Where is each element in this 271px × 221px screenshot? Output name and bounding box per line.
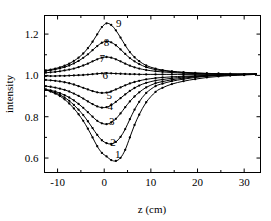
marker-7-6 <box>73 67 75 69</box>
marker-9-30 <box>243 73 245 75</box>
marker-5-5 <box>68 82 70 84</box>
marker-7-10 <box>91 60 93 62</box>
marker-8-7 <box>77 60 79 62</box>
marker-6-22 <box>154 73 156 75</box>
marker-9-7 <box>77 56 79 58</box>
y-axis-major-ticks <box>45 34 261 158</box>
marker-5-3 <box>59 80 61 82</box>
marker-9-27 <box>206 72 208 74</box>
curve-label-4: 4 <box>108 100 114 112</box>
marker-5-24 <box>171 76 173 78</box>
marker-8-9 <box>87 53 89 55</box>
marker-3-2 <box>54 90 56 92</box>
marker-3-5 <box>68 96 70 98</box>
marker-9-0 <box>45 69 47 71</box>
marker-6-5 <box>68 74 70 76</box>
marker-4-4 <box>63 89 65 91</box>
marker-9-4 <box>63 65 65 67</box>
marker-2-18 <box>129 118 131 120</box>
marker-7-4 <box>63 69 65 71</box>
marker-1-9 <box>87 128 89 130</box>
marker-9-18 <box>129 51 131 53</box>
marker-2-4 <box>63 96 65 98</box>
marker-8-19 <box>133 60 135 62</box>
x-tick-label-1: 0 <box>101 176 107 188</box>
marker-4-23 <box>161 78 163 80</box>
marker-5-9 <box>87 88 89 90</box>
marker-7-15 <box>115 58 117 60</box>
marker-4-19 <box>133 87 135 89</box>
y-axis-minor-ticks <box>45 55 261 138</box>
marker-6-2 <box>54 75 56 77</box>
marker-7-1 <box>49 71 51 73</box>
marker-1-11 <box>96 145 98 147</box>
marker-1-22 <box>154 91 156 93</box>
marker-9-29 <box>229 73 231 75</box>
marker-6-21 <box>145 73 147 75</box>
marker-7-9 <box>87 62 89 64</box>
marker-6-16 <box>119 73 121 75</box>
marker-8-15 <box>115 44 117 46</box>
marker-3-20 <box>138 91 140 93</box>
curve-7 <box>46 57 256 74</box>
marker-4-12 <box>101 106 103 108</box>
marker-3-13 <box>105 123 107 125</box>
marker-9-8 <box>82 52 84 54</box>
curve-label-7: 7 <box>100 52 106 64</box>
y-tick-label-0: 0.6 <box>25 152 39 164</box>
marker-4-18 <box>129 90 131 92</box>
marker-9-3 <box>59 66 61 68</box>
marker-5-12 <box>101 92 103 94</box>
marker-9-24 <box>171 70 173 72</box>
marker-6-8 <box>82 74 84 76</box>
marker-1-17 <box>124 149 126 151</box>
marker-9-20 <box>138 60 140 62</box>
curve-label-1: 1 <box>115 148 121 160</box>
marker-6-11 <box>96 73 98 75</box>
marker-9-12 <box>101 26 103 28</box>
marker-5-16 <box>119 86 121 88</box>
marker-6-4 <box>63 75 65 77</box>
marker-3-21 <box>145 86 147 88</box>
data-markers <box>45 22 257 162</box>
marker-2-19 <box>133 109 135 111</box>
marker-7-7 <box>77 66 79 68</box>
marker-8-14 <box>110 41 112 43</box>
marker-4-22 <box>154 79 156 81</box>
curve-label-9: 9 <box>116 17 122 29</box>
marker-2-9 <box>87 120 89 122</box>
marker-8-12 <box>101 42 103 44</box>
marker-1-25 <box>182 80 184 82</box>
marker-8-8 <box>82 57 84 59</box>
marker-7-2 <box>54 71 56 73</box>
marker-1-7 <box>77 113 79 115</box>
marker-4-5 <box>68 90 70 92</box>
marker-3-18 <box>129 100 131 102</box>
marker-1-10 <box>91 136 93 138</box>
marker-9-5 <box>68 62 70 64</box>
marker-2-23 <box>161 83 163 85</box>
marker-9-2 <box>54 67 56 69</box>
marker-4-11 <box>96 105 98 107</box>
y-tick-label-2: 1.0 <box>25 69 39 81</box>
figure-container: -100102030 0.60.81.01.2 123456789 z (cm)… <box>0 0 271 221</box>
marker-9-1 <box>49 68 51 70</box>
marker-6-1 <box>49 75 51 77</box>
marker-6-3 <box>59 75 61 77</box>
marker-9-13 <box>105 22 107 24</box>
marker-2-13 <box>105 142 107 144</box>
marker-5-2 <box>54 80 56 82</box>
marker-7-19 <box>133 66 135 68</box>
marker-5-4 <box>63 81 65 83</box>
marker-2-21 <box>145 92 147 94</box>
marker-1-5 <box>68 102 70 104</box>
marker-9-9 <box>87 47 89 49</box>
x-tick-label-0: -10 <box>50 176 65 188</box>
x-tick-label-3: 20 <box>192 176 204 188</box>
marker-5-11 <box>96 91 98 93</box>
marker-9-14 <box>110 24 112 26</box>
marker-3-4 <box>63 94 65 96</box>
marker-7-18 <box>129 65 131 67</box>
marker-2-12 <box>101 139 103 141</box>
marker-5-7 <box>77 85 79 87</box>
